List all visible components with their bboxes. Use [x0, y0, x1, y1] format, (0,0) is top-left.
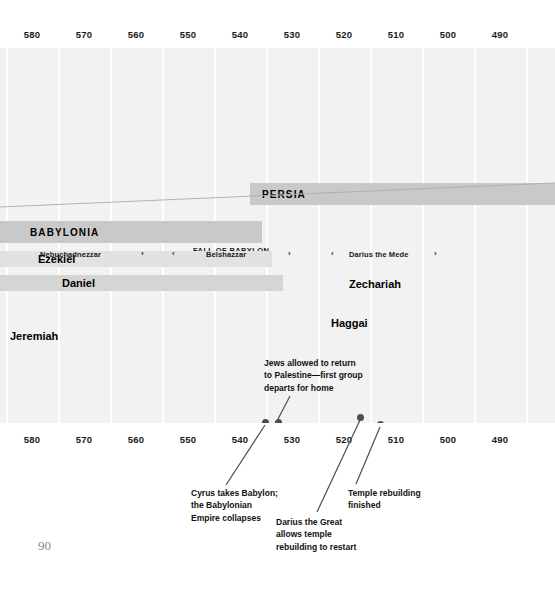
event-dot-temple-finished[interactable]: [377, 421, 384, 424]
axis-tick-bottom-580: 580: [15, 434, 49, 445]
axis-tick-top-530: 530: [275, 29, 309, 40]
event-dot-jews-return[interactable]: [275, 419, 282, 424]
axis-tick-top-510: 510: [379, 29, 413, 40]
empire-band-babylonia: BABYLONIA: [0, 221, 262, 243]
axis-tick-top-550: 550: [171, 29, 205, 40]
timeline-page: 580 570 560 550 540 530 520 510 500 490 …: [0, 0, 555, 589]
axis-tick-top-490: 490: [483, 29, 517, 40]
timeline-plot-area: PERSIA BABYLONIA FALL OF BABYLON Ezekiel…: [0, 48, 555, 423]
prophet-label-daniel: Daniel: [62, 277, 95, 289]
reign-arrow-left-icon: ‹: [331, 250, 334, 258]
event-note-darius-temple-restart: Darius the Great allows temple rebuildin…: [276, 516, 356, 553]
axis-tick-bottom-520: 520: [327, 434, 361, 445]
empire-band-persia: PERSIA: [250, 183, 555, 205]
axis-tick-bottom-540: 540: [223, 434, 257, 445]
axis-tick-top-500: 500: [431, 29, 465, 40]
prophet-label-haggai: Haggai: [331, 317, 368, 329]
king-label-darius-the-mede: Darius the Mede: [349, 250, 408, 259]
axis-tick-top-580: 580: [15, 29, 49, 40]
axis-tick-top-540: 540: [223, 29, 257, 40]
axis-tick-top-570: 570: [67, 29, 101, 40]
king-label-nebuchadnezzar: Nebuchadnezzar: [40, 250, 101, 259]
reign-arrow-right-icon: ›: [434, 250, 437, 258]
axis-tick-bottom-560: 560: [119, 434, 153, 445]
event-note-cyrus-takes-babylon: Cyrus takes Babylon; the Babylonian Empi…: [191, 487, 278, 524]
prophet-label-jeremiah: Jeremiah: [10, 330, 58, 342]
gridline: [526, 48, 528, 423]
axis-tick-bottom-500: 500: [431, 434, 465, 445]
axis-tick-bottom-570: 570: [67, 434, 101, 445]
axis-tick-bottom-530: 530: [275, 434, 309, 445]
event-dot-cyrus-takes-babylon[interactable]: [262, 419, 269, 424]
gridline: [422, 48, 424, 423]
reign-arrow-right-icon: ›: [141, 250, 144, 258]
empire-label-babylonia: BABYLONIA: [30, 227, 99, 238]
event-note-temple-finished: Temple rebuilding finished: [348, 487, 421, 512]
page-number: 90: [38, 538, 51, 554]
reign-arrow-right-icon: ›: [288, 250, 291, 258]
king-label-belshazzar: Belshazzar: [206, 250, 246, 259]
axis-tick-top-560: 560: [119, 29, 153, 40]
empire-label-persia: PERSIA: [262, 189, 306, 200]
prophet-band-daniel: Daniel: [0, 275, 283, 291]
axis-tick-bottom-550: 550: [171, 434, 205, 445]
event-dot-darius-temple-restart[interactable]: [357, 414, 364, 421]
axis-tick-bottom-510: 510: [379, 434, 413, 445]
reign-arrow-left-icon: ‹: [172, 250, 175, 258]
prophet-label-zechariah: Zechariah: [349, 278, 401, 290]
gridline: [474, 48, 476, 423]
axis-tick-bottom-490: 490: [483, 434, 517, 445]
axis-tick-top-520: 520: [327, 29, 361, 40]
gridline: [370, 48, 372, 423]
event-note-jews-return: Jews allowed to return to Palestine—firs…: [264, 357, 363, 394]
